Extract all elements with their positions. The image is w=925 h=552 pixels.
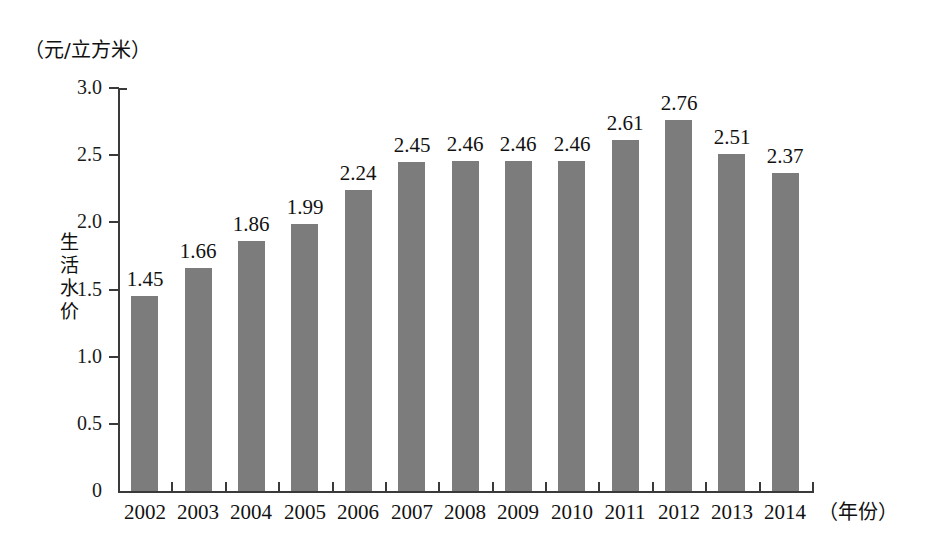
bar[interactable] [291, 224, 318, 491]
bar[interactable] [238, 241, 265, 491]
y-tick-label: 0.5 [44, 413, 102, 433]
x-category-label: 2006 [328, 500, 388, 524]
y-tick [109, 356, 119, 358]
x-tick [332, 482, 334, 492]
x-category-label: 2009 [488, 500, 548, 524]
bar[interactable] [185, 268, 212, 491]
y-tick-label: 2.5 [44, 144, 102, 164]
bar-value-label: 1.99 [275, 197, 335, 218]
y-tick-label-text: 0 [44, 480, 102, 500]
y-tick-label-text: 1.0 [44, 346, 102, 366]
x-tick [225, 482, 227, 492]
bar-value-label: 1.45 [115, 269, 175, 290]
bar[interactable] [718, 154, 745, 491]
bar[interactable] [612, 140, 639, 491]
x-tick [492, 482, 494, 492]
x-tick [545, 482, 547, 492]
y-tick-label-text: 2.0 [44, 211, 102, 231]
x-tick [759, 482, 761, 492]
x-tick [438, 482, 440, 492]
x-tick [598, 482, 600, 492]
bar-value-label: 2.76 [649, 93, 709, 114]
x-category-label: 2014 [755, 500, 815, 524]
y-tick-label-text: 2.5 [44, 144, 102, 164]
x-tick [705, 482, 707, 492]
x-category-label: 2012 [649, 500, 709, 524]
x-tick [171, 482, 173, 492]
bar[interactable] [665, 120, 692, 491]
x-tick [385, 482, 387, 492]
x-category-label: 2011 [595, 500, 655, 524]
x-category-label: 2013 [702, 500, 762, 524]
x-axis-right-cap [812, 482, 814, 493]
bar-value-label: 2.46 [488, 134, 548, 155]
bar-value-label: 2.37 [755, 146, 815, 167]
x-category-label: 2002 [115, 500, 175, 524]
x-tick [278, 482, 280, 492]
y-tick-label: 2.0 [44, 211, 102, 231]
bar-value-label: 2.46 [435, 134, 495, 155]
y-tick [109, 154, 119, 156]
bar[interactable] [558, 161, 585, 491]
y-tick-label-text: 0.5 [44, 413, 102, 433]
y-tick-label: 3.0 [44, 77, 102, 97]
bar-value-label: 1.66 [168, 241, 228, 262]
y-unit-label: （元/立方米） [24, 34, 151, 63]
bar-chart: （元/立方米） 生 活 水 价 00.51.01.52.02.53.0 1.45… [0, 0, 925, 552]
y-axis-top-cap [118, 88, 127, 90]
x-category-label: 2008 [435, 500, 495, 524]
y-axis-title: 生 活 水 价 [57, 231, 81, 323]
x-category-label: 2007 [382, 500, 442, 524]
x-axis-line [118, 491, 814, 493]
x-tick [652, 482, 654, 492]
x-axis-title: （年份） [818, 500, 898, 524]
bar[interactable] [452, 161, 479, 491]
y-tick-label: 1.5 [44, 279, 102, 299]
y-tick-label: 0 [44, 480, 102, 500]
bar-value-label: 2.45 [382, 135, 442, 156]
y-axis-title-char: 价 [57, 300, 81, 323]
bar-value-label: 2.46 [542, 134, 602, 155]
bar-value-label: 2.51 [702, 127, 762, 148]
bar[interactable] [398, 162, 425, 491]
x-category-label: 2003 [168, 500, 228, 524]
bar-value-label: 2.24 [328, 163, 388, 184]
bar[interactable] [345, 190, 372, 491]
y-tick [109, 221, 119, 223]
bar[interactable] [772, 173, 799, 491]
bar-value-label: 1.86 [221, 214, 281, 235]
x-category-label: 2010 [542, 500, 602, 524]
y-tick-label-text: 3.0 [44, 77, 102, 97]
y-tick-label-text: 1.5 [44, 279, 102, 299]
bar[interactable] [131, 296, 158, 491]
x-category-label: 2004 [221, 500, 281, 524]
y-tick-label: 1.0 [44, 346, 102, 366]
y-axis-title-char: 生 [57, 231, 81, 254]
y-tick [109, 423, 119, 425]
y-axis-title-char: 活 [57, 254, 81, 277]
bar[interactable] [505, 161, 532, 491]
y-axis-line [118, 88, 120, 493]
y-tick [109, 87, 119, 89]
bar-value-label: 2.61 [595, 113, 655, 134]
x-category-label: 2005 [275, 500, 335, 524]
